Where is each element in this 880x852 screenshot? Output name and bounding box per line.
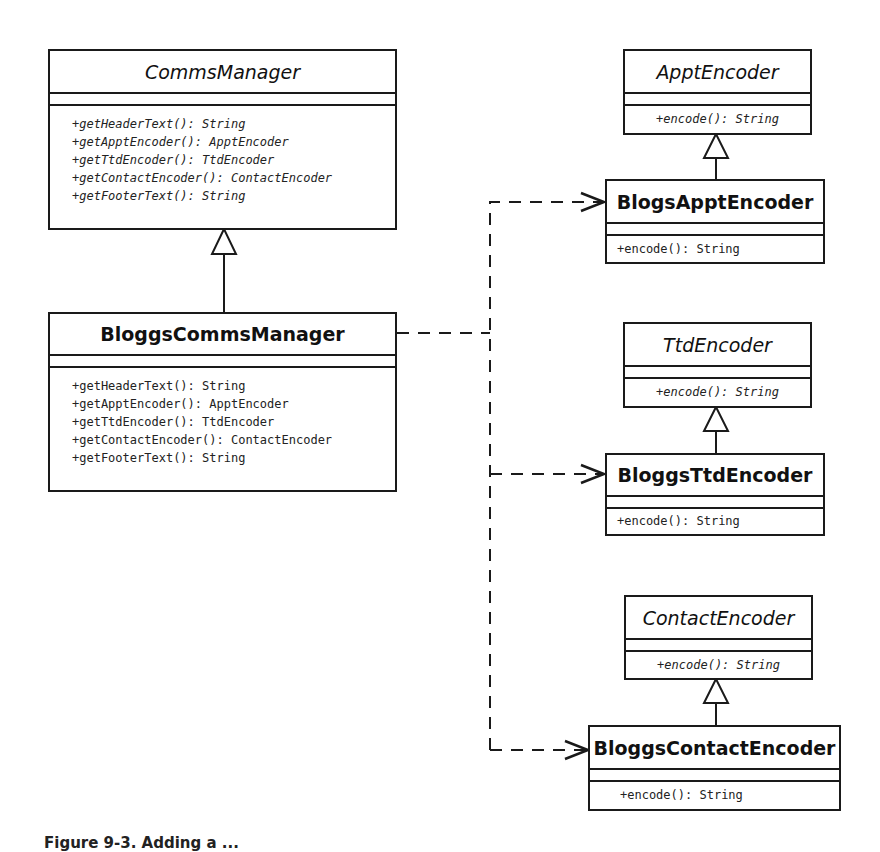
operation: +getHeaderText(): String [72, 115, 395, 133]
operations-compartment: +encode(): String [607, 509, 823, 530]
dependency-line [490, 202, 603, 750]
operation: +getApptEncoder(): ApptEncoder [72, 133, 395, 151]
attributes-compartment [50, 94, 395, 106]
operation: +getHeaderText(): String [72, 377, 395, 395]
operation: +encode(): String [620, 786, 839, 804]
operation: +encode(): String [625, 383, 810, 401]
operations-compartment: +getHeaderText(): String +getApptEncoder… [50, 106, 395, 205]
operations-compartment: +encode(): String [607, 236, 823, 258]
class-bloggs-ttd-encoder[interactable]: BloggsTtdEncoder +encode(): String [605, 453, 825, 536]
operation: +getApptEncoder(): ApptEncoder [72, 395, 395, 413]
class-name: TtdEncoder [625, 324, 810, 367]
attributes-compartment [50, 356, 395, 368]
operations-compartment: +encode(): String [626, 652, 811, 674]
class-blogs-appt-encoder[interactable]: BlogsApptEncoder +encode(): String [605, 179, 825, 264]
class-name: BloggsCommsManager [50, 314, 395, 356]
generalization-arrow-icon [704, 407, 728, 431]
class-appt-encoder[interactable]: ApptEncoder +encode(): String [623, 49, 812, 135]
class-contact-encoder[interactable]: ContactEncoder +encode(): String [624, 595, 813, 680]
operation: +getFooterText(): String [72, 187, 395, 205]
operation: +encode(): String [617, 512, 823, 530]
operations-compartment: +encode(): String [625, 379, 810, 401]
attributes-compartment [626, 640, 811, 652]
class-name: BlogsApptEncoder [607, 181, 823, 224]
attributes-compartment [625, 367, 810, 379]
class-name: BloggsTtdEncoder [607, 455, 823, 497]
attributes-compartment [590, 770, 839, 782]
operation: +encode(): String [625, 110, 810, 128]
operations-compartment: +encode(): String [590, 782, 839, 804]
operation: +getFooterText(): String [72, 449, 395, 467]
generalization-arrow-icon [704, 679, 728, 703]
class-comms-manager[interactable]: CommsManager +getHeaderText(): String +g… [48, 49, 397, 230]
attributes-compartment [607, 224, 823, 236]
operations-compartment: +encode(): String [625, 106, 810, 128]
class-name: ApptEncoder [625, 51, 810, 94]
figure-caption: Figure 9-3. Adding a ... [44, 834, 239, 852]
class-name: ContactEncoder [626, 597, 811, 640]
operations-compartment: +getHeaderText(): String +getApptEncoder… [50, 368, 395, 467]
generalization-arrow-icon [212, 229, 236, 254]
operation: +getContactEncoder(): ContactEncoder [72, 431, 395, 449]
class-name: CommsManager [50, 51, 395, 94]
operation: +encode(): String [617, 240, 823, 258]
attributes-compartment [625, 94, 810, 106]
class-bloggs-contact-encoder[interactable]: BloggsContactEncoder +encode(): String [588, 725, 841, 811]
class-bloggs-comms-manager[interactable]: BloggsCommsManager +getHeaderText(): Str… [48, 312, 397, 492]
attributes-compartment [607, 497, 823, 509]
class-name: BloggsContactEncoder [590, 727, 839, 770]
class-ttd-encoder[interactable]: TtdEncoder +encode(): String [623, 322, 812, 408]
operation: +getTtdEncoder(): TtdEncoder [72, 151, 395, 169]
operation: +getTtdEncoder(): TtdEncoder [72, 413, 395, 431]
operation: +getContactEncoder(): ContactEncoder [72, 169, 395, 187]
operation: +encode(): String [626, 656, 811, 674]
generalization-arrow-icon [704, 134, 728, 158]
